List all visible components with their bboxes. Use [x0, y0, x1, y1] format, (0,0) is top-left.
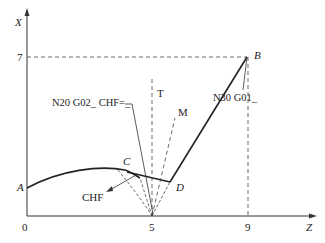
x-tick-7: 7: [17, 52, 23, 63]
point-d-label: D: [176, 182, 184, 193]
chf-arrow-icon: [106, 186, 113, 192]
m-label: M: [178, 107, 188, 118]
n30-annotation: N30 G01_: [213, 93, 257, 104]
point-a-label: A: [17, 182, 24, 193]
x-axis-label: X: [15, 17, 22, 28]
z-axis-label: Z: [306, 222, 312, 233]
chf-label: CHF: [82, 192, 103, 203]
chamfer-c-d: [127, 172, 170, 182]
t-label: T: [157, 88, 164, 99]
diagram-canvas: [0, 0, 325, 243]
point-c-label: C: [123, 156, 130, 167]
n20-annotation: N20 G02_ CHF=_: [52, 98, 130, 109]
z-axis-arrow-icon: [309, 214, 317, 219]
line-d-b: [170, 57, 247, 182]
c-ray: [140, 178, 152, 216]
m-ray: [152, 118, 175, 216]
z-tick-5: 5: [149, 222, 155, 233]
x-axis-arrow-icon: [25, 8, 30, 16]
z-tick-9: 9: [245, 222, 251, 233]
d-ray: [152, 182, 170, 216]
origin-label: 0: [22, 222, 28, 233]
point-b-label: B: [254, 50, 261, 61]
arc-a-c: [27, 168, 140, 188]
n20-leader: [132, 104, 153, 214]
